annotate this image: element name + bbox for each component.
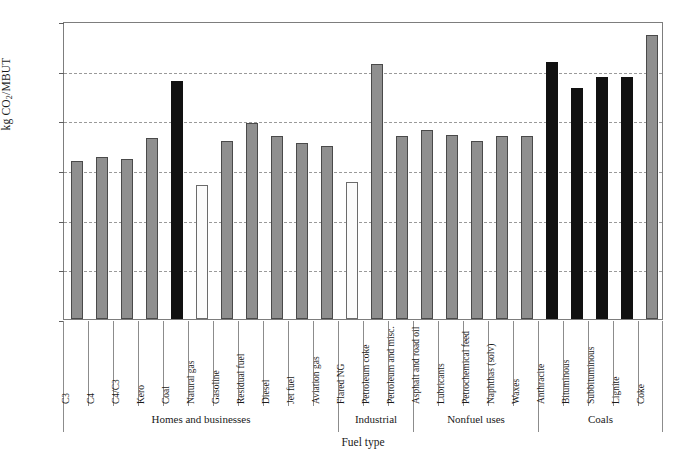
category-label: Petroleum coke (361, 345, 371, 404)
category-cell: Coal (163, 321, 188, 406)
category-label: Diesel (261, 380, 271, 404)
category-cell: Petrochemical feed (463, 321, 488, 406)
group-label-strip: Homes and businessesIndustrialNonfuel us… (63, 406, 663, 432)
bar (296, 143, 308, 319)
category-cell: C4/C3 (113, 321, 138, 406)
category-cell: Residual fuel (238, 321, 263, 406)
bar (646, 35, 658, 319)
gridline (64, 73, 662, 74)
plot-area: 020406080100120 (63, 22, 663, 320)
bar (621, 77, 633, 319)
category-cell: Waxes (513, 321, 538, 406)
group-label: Industrial (355, 413, 397, 425)
category-label: Lignite (611, 377, 621, 404)
category-cell: Gasoline (213, 321, 238, 406)
category-label: Flared NG (336, 364, 346, 404)
bar (496, 136, 508, 319)
category-cell: Natural gas (188, 321, 213, 406)
bar (146, 138, 158, 319)
category-label: C4/C3 (111, 379, 121, 404)
category-label: C4 (86, 393, 96, 404)
bar (246, 123, 258, 319)
category-label: Lubricants (436, 363, 446, 404)
group-cell: Coals (538, 406, 663, 432)
category-label: Petroleum and misc. (386, 326, 396, 404)
category-label: C3 (61, 393, 71, 404)
category-cell: Lubricants (438, 321, 463, 406)
bar (421, 130, 433, 319)
category-cell: Naphthas (solv) (488, 321, 513, 406)
category-cell: Kero (138, 321, 163, 406)
category-label: Kero (136, 385, 146, 404)
y-axis-tick-mark (59, 73, 64, 74)
y-axis-tick-mark (59, 271, 64, 272)
category-cell: Bituminous (563, 321, 588, 406)
y-axis-title: kg CO2/MBUT (0, 24, 22, 164)
bar (446, 135, 458, 319)
bar (71, 161, 83, 319)
group-cell: Nonfuel uses (413, 406, 538, 432)
category-cell: Petroleum and misc. (388, 321, 413, 406)
group-label: Nonfuel uses (447, 413, 505, 425)
category-label: Subbituminous (586, 346, 596, 404)
group-cell: Homes and businesses (63, 406, 338, 432)
category-label: Aviation gas (311, 356, 321, 404)
y-axis-tick-mark (59, 222, 64, 223)
x-axis-title: Fuel type (63, 436, 663, 448)
bar (346, 182, 358, 319)
category-cell: Diesel (263, 321, 288, 406)
group-cell: Industrial (338, 406, 413, 432)
category-cell: Petroleum coke (363, 321, 388, 406)
bar (396, 136, 408, 319)
y-axis-tick-mark (59, 122, 64, 123)
category-label: Asphalt and road oil (411, 327, 421, 404)
category-cell: Asphalt and road oil (413, 321, 438, 406)
category-label: Coke (636, 384, 646, 404)
bar-chart-figure: kg CO2/MBUT 020406080100120 C3C4C4/C3Ker… (0, 0, 681, 462)
y-axis-tick-mark (59, 172, 64, 173)
category-cell: Flared NG (338, 321, 363, 406)
y-axis-tick-mark (59, 23, 64, 24)
bar (196, 185, 208, 319)
y-axis-title-suffix: /MBUT (0, 58, 12, 95)
category-cell: Aviation gas (313, 321, 338, 406)
bar (471, 141, 483, 319)
category-cell: C4 (88, 321, 113, 406)
y-axis-title-prefix: kg CO (0, 99, 12, 130)
bar (121, 159, 133, 319)
bar (596, 77, 608, 319)
category-label-strip: C3C4C4/C3KeroCoalNatural gasGasolineResi… (63, 321, 663, 406)
category-label: Natural gas (186, 360, 196, 404)
category-label: Residual fuel (236, 354, 246, 404)
y-axis-title-subscript: 2 (5, 95, 14, 99)
bar (221, 141, 233, 319)
category-cell: Jet fuel (288, 321, 313, 406)
bar (321, 146, 333, 319)
group-label: Coals (588, 413, 613, 425)
category-cell: Coke (638, 321, 663, 406)
bar (96, 157, 108, 319)
category-label: Waxes (511, 379, 521, 404)
bar (371, 64, 383, 319)
category-label: Bituminous (561, 360, 571, 404)
category-cell: Lignite (613, 321, 638, 406)
category-label: Jet fuel (286, 376, 296, 404)
category-cell: Subbituminous (588, 321, 613, 406)
bar (521, 136, 533, 319)
category-cell: C3 (63, 321, 88, 406)
category-label: Gasoline (211, 370, 221, 404)
category-label: Coal (161, 386, 171, 404)
bar (546, 62, 558, 319)
category-label: Petrochemical feed (461, 331, 471, 404)
category-label: Naphthas (solv) (486, 344, 496, 404)
bar (571, 88, 583, 319)
category-cell: Anthracite (538, 321, 563, 406)
bar (271, 136, 283, 319)
bar (171, 81, 183, 319)
group-label: Homes and businesses (152, 413, 251, 425)
category-label: Anthracite (536, 364, 546, 404)
